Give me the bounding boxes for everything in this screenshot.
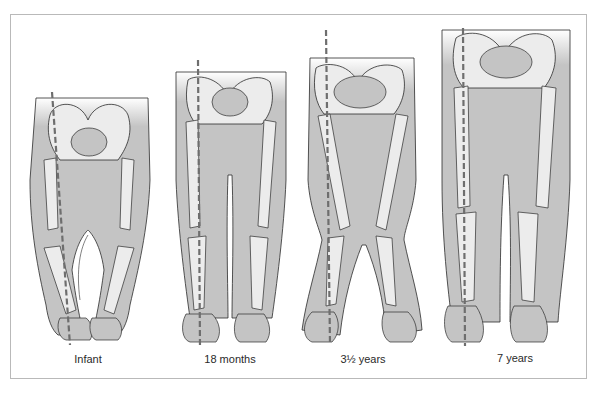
7-years-figure: [442, 28, 570, 346]
stage-label-3-5-years: 3½ years: [313, 353, 413, 365]
stage-label-18-months: 18 months: [180, 353, 280, 365]
leg-illustrations: [0, 0, 598, 393]
3-5-years-figure: [302, 30, 422, 345]
stage-label-infant: Infant: [38, 353, 138, 365]
infant-figure: [30, 92, 150, 345]
18-months-figure: [176, 60, 286, 348]
stage-label-7-years: 7 years: [465, 352, 565, 364]
